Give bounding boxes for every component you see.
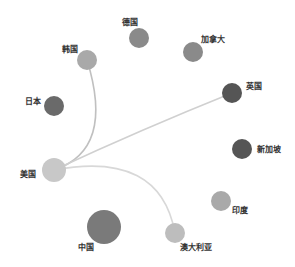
node-germany[interactable]	[129, 28, 149, 48]
node-uk[interactable]	[222, 83, 242, 103]
node-label-china: 中国	[78, 243, 94, 253]
node-label-japan: 日本	[25, 97, 41, 107]
node-label-india: 印度	[232, 206, 248, 216]
edge-usa_hub-uk[interactable]	[54, 93, 232, 170]
node-canada[interactable]	[183, 42, 203, 62]
node-layer	[42, 28, 252, 244]
node-australia[interactable]	[165, 223, 185, 243]
node-label-australia: 澳大利亚	[180, 243, 212, 253]
edge-layer	[54, 60, 232, 233]
node-usa_hub[interactable]	[42, 158, 66, 182]
network-graph	[0, 0, 295, 267]
node-china[interactable]	[87, 210, 121, 244]
node-korea[interactable]	[77, 50, 97, 70]
node-india[interactable]	[211, 191, 231, 211]
node-label-germany: 德国	[122, 18, 138, 28]
node-label-singapore: 新加坡	[257, 145, 281, 155]
node-label-canada: 加拿大	[201, 35, 225, 45]
node-japan[interactable]	[44, 96, 64, 116]
node-label-usa_hub: 美国	[20, 170, 36, 180]
node-label-korea: 韩国	[62, 45, 78, 55]
node-singapore[interactable]	[232, 139, 252, 159]
node-label-uk: 英国	[246, 82, 262, 92]
